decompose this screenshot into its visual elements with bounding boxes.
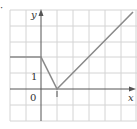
origin-label: 0 [30,93,36,103]
graph [0,0,137,129]
y-axis-label: y [31,10,37,20]
y-tick-label-1: 1 [31,72,37,82]
function-curve [10,12,133,89]
x-axis-label: x [128,93,134,103]
x-axis-arrow-icon [129,87,136,92]
corner-mark: · [0,3,3,13]
